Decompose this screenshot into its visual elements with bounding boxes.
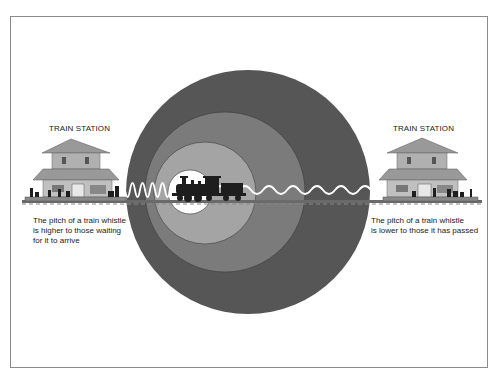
train-station-building-icon-left (25, 139, 126, 201)
caption-line: is higher to those waiting (33, 226, 126, 236)
right-station-caption: The pitch of a train whistle is lower to… (371, 216, 478, 236)
train-station-building-icon-right (379, 138, 478, 201)
caption-line: The pitch of a train whistle (33, 216, 126, 226)
left-station-caption: The pitch of a train whistle is higher t… (33, 216, 126, 246)
caption-line: The pitch of a train whistle (371, 216, 478, 226)
right-station-label: TRAIN STATION (393, 124, 454, 133)
left-station-label: TRAIN STATION (49, 124, 110, 133)
caption-line: is lower to those it has passed (371, 226, 478, 236)
doppler-diagram (0, 0, 500, 382)
caption-line: for it to arrive (33, 236, 126, 246)
